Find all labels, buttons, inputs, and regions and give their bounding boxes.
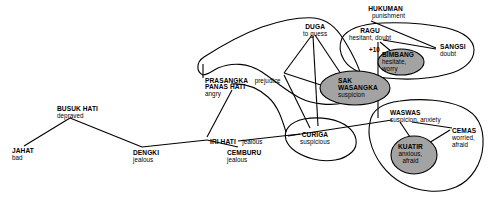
node-sak-wasangka: SAK WASANGKA suspicion <box>338 78 378 98</box>
node-waswas-gloss: suspicion, anxiety <box>390 117 441 124</box>
node-ragu-gloss: hesitant, doubt <box>349 35 391 42</box>
node-busuk-hati: BUSUK HATI depraved <box>57 106 98 120</box>
annotation-plus-ten: +10 <box>369 46 380 53</box>
node-dengki: DENGKI jealous <box>133 150 159 164</box>
network-graphics <box>0 0 492 199</box>
node-sangsi-gloss: doubt <box>440 51 466 58</box>
edge-duga-curiga <box>313 36 318 126</box>
node-cemburu: CEMBURU jealous <box>227 150 261 164</box>
node-sak-wasangka-gloss: suspicion <box>338 92 378 99</box>
node-kuatir: KUATIR anxious, afraid <box>398 144 423 164</box>
edge-dengki-irihati <box>142 140 207 147</box>
node-cemas: CEMAS worried, afraid <box>452 128 476 148</box>
node-ragu: RAGU hesitant, doubt <box>349 28 391 42</box>
node-duga-gloss: to guess <box>303 31 327 38</box>
node-cemas-gloss: worried, afraid <box>452 135 476 148</box>
node-kuatir-gloss: anxious, afraid <box>398 151 423 164</box>
node-curiga-gloss: suspicious <box>300 139 330 146</box>
node-iri-hati-gloss: jealous <box>242 138 262 145</box>
node-bimbang: BIMBANG hesitate, worry <box>382 52 414 72</box>
node-curiga: CURIGA suspicious <box>300 132 330 146</box>
node-jahat: JAHAT bad <box>12 148 34 162</box>
node-prasangka-gloss: prejudice <box>255 77 281 84</box>
semantic-network-diagram: JAHAT bad BUSUK HATI depraved DENGKI jea… <box>0 0 492 199</box>
node-waswas: WASWAS suspicion, anxiety <box>390 110 441 124</box>
node-duga: DUGA to guess <box>303 24 327 38</box>
node-busuk-hati-gloss: depraved <box>57 113 98 120</box>
node-hukuman: HUKUMAN punishment <box>366 6 405 20</box>
node-hukuman-gloss: punishment <box>372 13 405 20</box>
node-iri-hati: IRI HATI jealous <box>210 131 263 148</box>
node-sangsi: SANGSI doubt <box>440 44 466 58</box>
node-sak-wasangka-term: SAK WASANGKA <box>338 78 378 92</box>
node-panas-hati: PANAS HATI angry <box>205 84 245 98</box>
edge-prasangka-duga <box>284 35 312 73</box>
node-panas-hati-gloss: angry <box>205 91 245 98</box>
node-cemburu-gloss: jealous <box>227 157 261 164</box>
node-dengki-gloss: jealous <box>133 157 159 164</box>
edge-jahat-busukhati <box>24 118 70 146</box>
node-bimbang-gloss: hesitate, worry <box>382 59 414 72</box>
edge-busukhati-dengki <box>70 118 142 147</box>
edge-prasangka-curiga <box>284 75 310 128</box>
node-iri-hati-term: IRI HATI <box>210 138 236 145</box>
node-jahat-gloss: bad <box>12 155 34 162</box>
